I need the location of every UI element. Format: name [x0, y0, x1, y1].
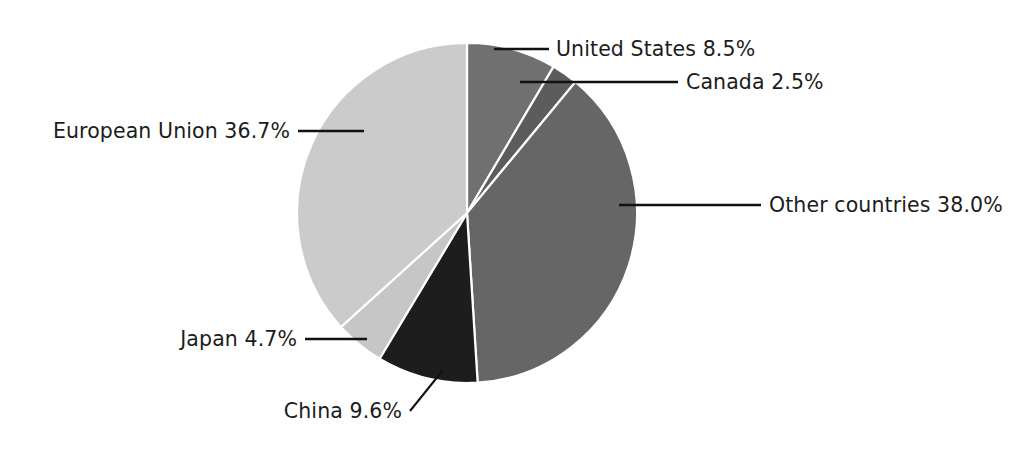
pie-chart: United States 8.5% Canada 2.5% Other cou…	[0, 0, 1023, 458]
pie-label-united-states: United States 8.5%	[556, 37, 755, 61]
pie-label-canada: Canada 2.5%	[686, 70, 824, 94]
pie-label-european-union: European Union 36.7%	[53, 119, 290, 143]
pie-label-china: China 9.6%	[284, 399, 402, 423]
pie-label-japan: Japan 4.7%	[178, 327, 297, 351]
pie-slice-group	[297, 43, 637, 383]
pie-label-other-countries: Other countries 38.0%	[769, 193, 1003, 217]
chart-canvas: United States 8.5% Canada 2.5% Other cou…	[0, 0, 1023, 458]
